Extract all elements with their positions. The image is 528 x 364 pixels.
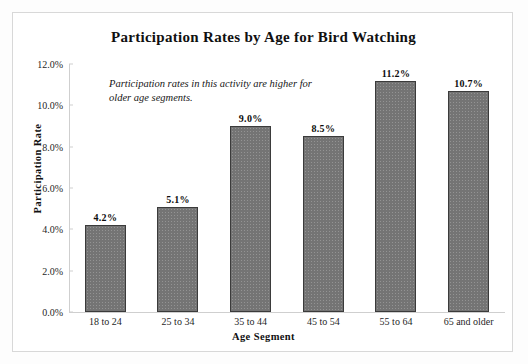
y-tick-label: 4.0% — [42, 224, 63, 235]
x-tick-label: 35 to 44 — [234, 316, 267, 327]
bar[interactable]: 11.2% — [375, 81, 416, 312]
bar-slot: 5.1% — [142, 64, 215, 312]
bar[interactable]: 9.0% — [230, 126, 271, 312]
y-tick-label: 12.0% — [37, 59, 63, 70]
chart-frame: Participation Rates by Age for Bird Watc… — [12, 12, 513, 352]
bar-slot: 11.2% — [360, 64, 433, 312]
y-tick-label: 2.0% — [42, 265, 63, 276]
bars-layer: 4.2%5.1%9.0%8.5%11.2%10.7% — [69, 64, 505, 312]
y-tick-label: 0.0% — [42, 307, 63, 318]
y-tick-label: 10.0% — [37, 100, 63, 111]
x-tick-label: 25 to 34 — [162, 316, 195, 327]
x-tick-label: 55 to 64 — [380, 316, 413, 327]
bar-slot: 10.7% — [432, 64, 505, 312]
y-axis-title: Participation Rate — [32, 109, 43, 229]
bar-value-label: 9.0% — [239, 113, 263, 124]
bar-value-label: 5.1% — [166, 194, 190, 205]
bar-value-label: 11.2% — [382, 68, 410, 79]
plot-area: 0.0%2.0%4.0%6.0%8.0%10.0%12.0% 4.2%5.1%9… — [69, 64, 505, 312]
y-tick-label: 8.0% — [42, 141, 63, 152]
bar[interactable]: 10.7% — [448, 91, 489, 312]
x-tick-label: 65 and older — [444, 316, 494, 327]
x-tick-label: 45 to 54 — [307, 316, 340, 327]
bar-value-label: 8.5% — [311, 123, 335, 134]
chart-page: Participation Rates by Age for Bird Watc… — [0, 0, 528, 364]
bar-slot: 4.2% — [69, 64, 142, 312]
x-axis-line — [69, 312, 505, 313]
x-tick-label: 18 to 24 — [89, 316, 122, 327]
bar[interactable]: 4.2% — [85, 225, 126, 312]
y-tick-label: 6.0% — [42, 183, 63, 194]
bar-value-label: 4.2% — [93, 212, 117, 223]
bar-value-label: 10.7% — [454, 78, 483, 89]
bar-slot: 9.0% — [214, 64, 287, 312]
x-axis-title: Age Segment — [13, 331, 514, 342]
bar[interactable]: 5.1% — [157, 207, 198, 312]
bar-slot: 8.5% — [287, 64, 360, 312]
bar[interactable]: 8.5% — [303, 136, 344, 312]
chart-title: Participation Rates by Age for Bird Watc… — [13, 29, 514, 46]
